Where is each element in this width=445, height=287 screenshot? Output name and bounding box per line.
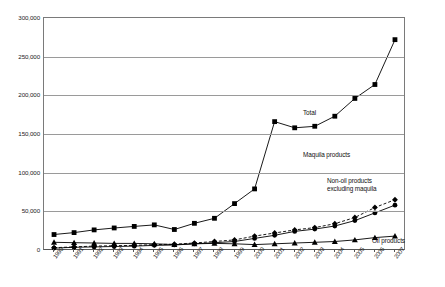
data-point-marker	[92, 227, 97, 232]
data-point-marker	[192, 221, 197, 226]
data-point-marker	[393, 203, 398, 208]
annotation-nonoil-line2: excluding maquila	[327, 185, 376, 193]
gridline	[44, 173, 404, 174]
data-point-marker	[292, 229, 297, 234]
data-point-marker	[352, 218, 357, 223]
gridline	[44, 95, 404, 96]
data-point-marker	[352, 96, 357, 101]
plot-area	[43, 17, 405, 250]
data-point-marker	[272, 233, 277, 238]
annotation-nonoil-line1: Non-oil products	[327, 177, 372, 185]
x-tick-mark	[254, 249, 255, 252]
data-point-marker	[232, 201, 237, 206]
data-point-marker	[112, 226, 117, 231]
data-point-marker	[393, 37, 398, 42]
series-total	[52, 37, 398, 237]
data-point-marker	[272, 119, 277, 124]
annotation-oil: Oil products	[372, 237, 405, 245]
data-point-marker	[212, 216, 217, 221]
data-point-marker	[252, 236, 257, 241]
y-tick-label: 300,000	[18, 14, 40, 21]
gridline	[44, 134, 404, 135]
y-tick-label: 50,000	[22, 207, 40, 214]
data-point-marker	[252, 187, 257, 192]
x-tick-mark	[294, 249, 295, 252]
data-point-marker	[132, 224, 137, 229]
x-tick-mark	[314, 249, 315, 252]
data-point-marker	[312, 227, 317, 232]
series-line	[54, 40, 395, 235]
data-point-marker	[292, 125, 297, 130]
gridline	[44, 211, 404, 212]
annotation-maquila: Maquila products	[303, 151, 350, 159]
y-tick-label: 250,000	[18, 52, 40, 59]
x-tick-mark	[274, 249, 275, 252]
data-point-marker	[332, 114, 337, 119]
chart-container: 050,000100,000150,000200,000250,000300,0…	[0, 0, 445, 287]
data-point-marker	[72, 230, 77, 235]
data-point-marker	[332, 224, 337, 229]
data-point-marker	[372, 205, 378, 211]
y-tick-label: 0	[37, 246, 40, 253]
series-oil-products	[51, 233, 398, 247]
data-point-marker	[52, 232, 57, 237]
y-tick-label: 150,000	[18, 130, 40, 137]
data-point-marker	[172, 227, 177, 232]
y-axis-labels: 050,000100,000150,000200,000250,000300,0…	[0, 0, 40, 287]
data-point-marker	[373, 82, 378, 87]
y-tick-label: 200,000	[18, 91, 40, 98]
data-point-marker	[392, 197, 398, 203]
y-tick-label: 100,000	[18, 168, 40, 175]
x-tick-mark	[334, 249, 335, 252]
data-point-marker	[152, 222, 157, 227]
data-point-marker	[312, 124, 317, 129]
annotation-total: Total	[303, 109, 316, 117]
gridline	[44, 57, 404, 58]
x-axis-labels: 1990199119921993199419951996199719981999…	[43, 252, 405, 287]
x-tick-mark	[234, 249, 235, 252]
